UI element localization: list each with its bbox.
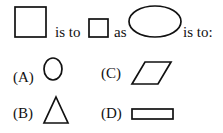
large-square-icon [14,6,47,38]
is-to-text-2: is to: [183,25,213,40]
thin-rectangle-icon [131,108,174,120]
vertical-ellipse-icon [43,57,63,81]
is-to-text-1: is to [55,25,80,40]
option-a-label: (A) [13,70,34,85]
triangle-icon [43,96,69,124]
parallelogram-icon [131,61,172,85]
option-d-label: (D) [101,106,122,121]
as-text: as [114,25,127,40]
option-b-label: (B) [13,106,33,121]
option-c-label: (C) [101,66,121,81]
small-square-icon [88,18,109,38]
horizontal-ellipse-icon [128,5,182,38]
